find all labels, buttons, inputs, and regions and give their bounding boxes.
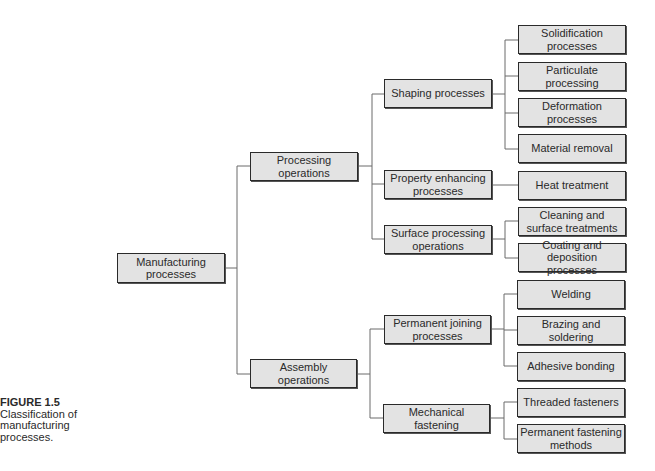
node-permanent-joining-processes: Permanent joining processes — [384, 315, 491, 344]
node-shaping-processes: Shaping processes — [384, 79, 492, 108]
node-label: Threaded fasteners — [523, 396, 618, 409]
node-label: Coating and deposition processes — [521, 239, 623, 277]
node-adhesive-bonding: Adhesive bonding — [517, 352, 625, 381]
node-material-removal: Material removal — [518, 134, 626, 163]
node-label: Solidification processes — [521, 27, 623, 52]
node-property-enhancing-processes: Property enhancing processes — [384, 170, 492, 199]
node-label: Adhesive bonding — [527, 360, 614, 373]
node-label: Manufacturing processes — [120, 256, 222, 281]
node-label: Assembly operations — [253, 361, 354, 386]
figure-label: FIGURE 1.5 — [0, 397, 110, 409]
node-surface-processing-operations: Surface processing operations — [384, 225, 492, 254]
node-label: Shaping processes — [391, 87, 485, 100]
node-label: Processing operations — [253, 154, 355, 179]
node-label: Heat treatment — [536, 179, 609, 192]
node-label: Mechanical fastening — [386, 406, 487, 431]
node-brazing-and-soldering: Brazing and soldering — [517, 316, 625, 345]
node-label: Material removal — [531, 142, 612, 155]
node-label: Particulate processing — [521, 64, 623, 89]
node-heat-treatment: Heat treatment — [518, 171, 626, 200]
node-solidification-processes: Solidification processes — [518, 25, 626, 54]
caption-line: processes. — [0, 432, 110, 444]
node-label: Cleaning and surface treatments — [521, 209, 623, 234]
node-deformation-processes: Deformation processes — [518, 98, 626, 127]
node-label: Deformation processes — [521, 100, 623, 125]
caption-line: manufacturing — [0, 420, 110, 432]
node-threaded-fasteners: Threaded fasteners — [517, 388, 625, 417]
node-permanent-fastening-methods: Permanent fastening methods — [517, 424, 625, 453]
node-welding: Welding — [517, 280, 625, 309]
node-processing-operations: Processing operations — [250, 152, 358, 181]
node-label: Surface processing operations — [387, 227, 489, 252]
node-label: Permanent joining processes — [387, 317, 488, 342]
node-coating-and-deposition-processes: Coating and deposition processes — [518, 243, 626, 272]
node-label: Brazing and soldering — [520, 318, 622, 343]
node-assembly-operations: Assembly operations — [250, 359, 357, 388]
figure-caption: FIGURE 1.5 Classification of manufacturi… — [0, 397, 110, 443]
node-particulate-processing: Particulate processing — [518, 62, 626, 91]
node-cleaning-and-surface-treatments: Cleaning and surface treatments — [518, 207, 626, 236]
node-label: Permanent fastening methods — [520, 426, 622, 451]
node-manufacturing-processes: Manufacturing processes — [117, 253, 225, 283]
node-label: Property enhancing processes — [387, 172, 489, 197]
node-mechanical-fastening: Mechanical fastening — [383, 404, 490, 433]
node-label: Welding — [551, 288, 591, 301]
